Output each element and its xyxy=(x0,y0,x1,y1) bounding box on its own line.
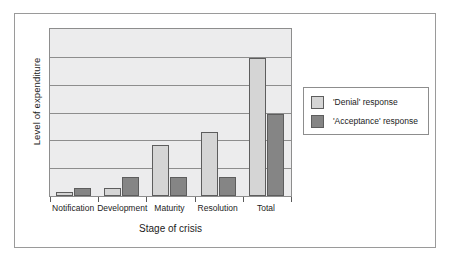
x-axis-label-notification: Notification xyxy=(49,203,97,213)
x-axis-tick xyxy=(195,197,196,202)
legend-label-denial: 'Denial' response xyxy=(333,97,398,107)
bar-group xyxy=(195,29,243,196)
x-axis-tick xyxy=(98,197,99,202)
x-axis-tick xyxy=(50,197,51,202)
bar-denial xyxy=(56,192,73,196)
x-axis-label-resolution: Resolution xyxy=(194,203,242,213)
legend-entry-denial: 'Denial' response xyxy=(311,94,398,110)
x-axis-labels: NotificationDevelopmentMaturityResolutio… xyxy=(49,203,292,217)
bar-denial xyxy=(201,132,218,196)
legend-swatch-denial xyxy=(311,96,324,109)
bar-group xyxy=(243,29,291,196)
chart-legend: 'Denial' response 'Acceptance' response xyxy=(303,87,429,135)
x-axis-label-development: Development xyxy=(97,203,145,213)
bar-chart: Level of expenditure NotificationDevelop… xyxy=(15,14,437,249)
plot-area xyxy=(49,28,292,197)
legend-label-acceptance: 'Acceptance' response xyxy=(333,116,418,126)
bars-layer xyxy=(50,29,291,196)
legend-swatch-acceptance xyxy=(311,115,324,128)
bar-acceptance xyxy=(267,114,284,196)
bar-group xyxy=(98,29,146,196)
x-axis-tick xyxy=(146,197,147,202)
bar-group xyxy=(50,29,98,196)
bar-denial xyxy=(249,58,266,196)
bar-acceptance xyxy=(122,177,139,196)
bar-group xyxy=(146,29,194,196)
bar-acceptance xyxy=(74,188,91,196)
bar-acceptance xyxy=(219,177,236,196)
bar-denial xyxy=(152,145,169,196)
x-axis-title: Stage of crisis xyxy=(49,223,292,234)
bar-denial xyxy=(104,188,121,196)
figure-frame: Level of expenditure NotificationDevelop… xyxy=(14,13,436,248)
legend-entry-acceptance: 'Acceptance' response xyxy=(311,113,418,129)
bar-acceptance xyxy=(170,177,187,196)
x-axis-tick xyxy=(243,197,244,202)
x-axis-label-total: Total xyxy=(242,203,290,213)
y-axis-title: Level of expenditure xyxy=(31,37,42,167)
x-axis-tick xyxy=(291,197,292,202)
x-axis-label-maturity: Maturity xyxy=(145,203,193,213)
